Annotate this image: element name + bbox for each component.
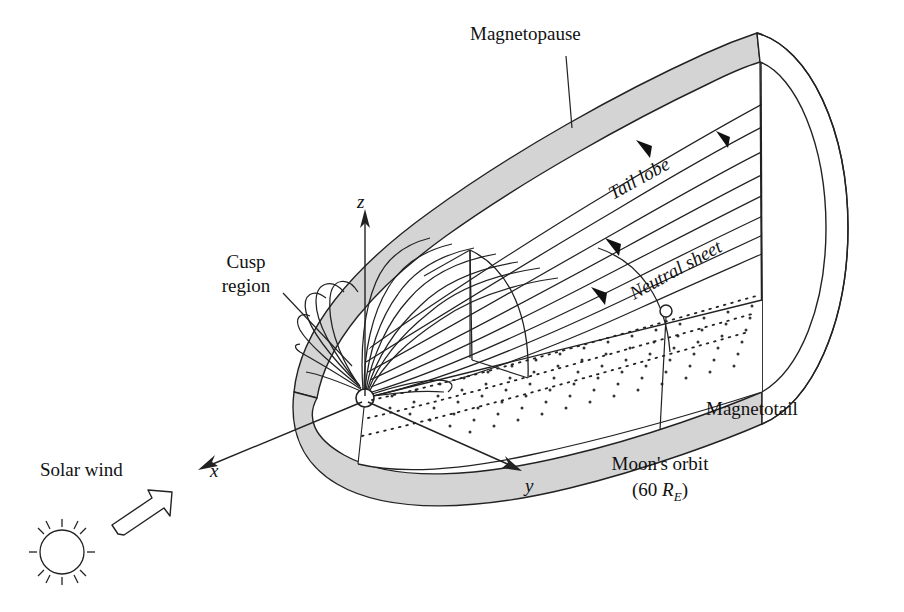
sun-ray	[74, 521, 78, 529]
radius-subscript: E	[673, 489, 682, 504]
label-magnetotail: Magnetotail	[706, 398, 798, 419]
sun-ray	[38, 570, 44, 576]
radius-symbol: R	[661, 479, 674, 500]
moon-marker-icon	[660, 305, 672, 317]
axis-label-z: z	[356, 191, 365, 212]
paren-open: (60	[632, 479, 662, 501]
tail-cut-vertical-edge	[761, 62, 762, 300]
sun-ray	[38, 528, 44, 534]
sun-disc	[40, 530, 84, 574]
axis-label-y: y	[523, 475, 534, 496]
tail-end-cap	[757, 33, 848, 424]
label-solar-wind: Solar wind	[40, 459, 123, 480]
sun-icon	[29, 519, 95, 585]
flow-arrowhead-icon	[591, 287, 607, 305]
flow-arrowhead-icon	[636, 140, 652, 158]
label-moons-orbit: Moon's orbit	[612, 453, 710, 474]
label-magnetopause: Magnetopause	[470, 23, 581, 44]
sun-ray	[74, 575, 78, 583]
sun-ray	[46, 575, 50, 583]
axis-label-x: x	[209, 460, 219, 481]
paren-close: )	[682, 479, 688, 501]
label-neutral-sheet: Neutral sheet	[625, 235, 726, 304]
sun-ray	[46, 521, 50, 529]
magnetosphere-figure: Magnetopause Tail lobe Neutral sheet Cus…	[0, 0, 904, 612]
label-moons-orbit-radius: (60 RE)	[632, 479, 688, 504]
flow-arrowhead-icon	[716, 131, 730, 148]
label-cusp-region-line2: region	[222, 275, 271, 296]
magnetosphere-diagram: Magnetopause Tail lobe Neutral sheet Cus…	[0, 0, 904, 612]
block-arrow-icon	[112, 490, 172, 535]
sun-ray	[80, 570, 86, 576]
sun-ray	[80, 528, 86, 534]
magnetopause-leader	[566, 56, 572, 128]
solar-wind-arrow-body	[112, 490, 172, 535]
label-cusp-region-line1: Cusp	[226, 251, 265, 272]
